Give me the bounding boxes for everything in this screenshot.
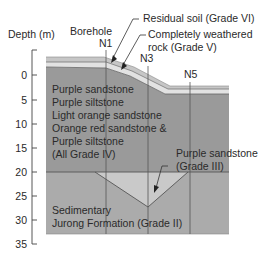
borehole-label-n5: N5 xyxy=(184,68,198,80)
callout-cw-rock-2: rock (Grade V) xyxy=(148,41,217,53)
tick-5: 5 xyxy=(21,94,27,106)
grade4-line-3: Light orange sandstone xyxy=(52,109,162,121)
tick-30: 30 xyxy=(15,214,27,226)
callout-cw-rock-1: Completely weathered xyxy=(148,28,253,40)
axis-label: Depth (m) xyxy=(8,28,55,40)
borehole-title: Borehole xyxy=(70,25,112,37)
depth-axis xyxy=(32,50,37,244)
geological-profile-diagram: Depth (m) 0 5 10 15 20 25 30 35 Borehole… xyxy=(0,0,270,261)
grade2-line-2: Jurong Formation (Grade II) xyxy=(52,217,182,229)
grade2-line-1: Sedimentary xyxy=(52,204,112,216)
tick-10: 10 xyxy=(15,118,27,130)
grade4-line-4: Orange red sandstone & xyxy=(52,122,166,134)
tick-20: 20 xyxy=(15,166,27,178)
callout-grade3-1: Purple sandstone xyxy=(176,147,258,159)
callout-residual-soil: Residual soil (Grade VI) xyxy=(143,12,254,24)
tick-0: 0 xyxy=(21,69,27,81)
borehole-label-n3: N3 xyxy=(140,52,154,64)
grade4-line-2: Purple siltstone xyxy=(52,96,124,108)
tick-15: 15 xyxy=(15,142,27,154)
callout-grade3-2: (Grade III) xyxy=(176,160,224,172)
borehole-label-n1: N1 xyxy=(99,37,113,49)
grade4-line-1: Purple sandstone xyxy=(52,83,134,95)
grade4-line-6: (All Grade IV) xyxy=(52,148,116,160)
grade4-line-5: Purple siltstone xyxy=(52,135,124,147)
tick-35: 35 xyxy=(15,238,27,250)
tick-25: 25 xyxy=(15,190,27,202)
